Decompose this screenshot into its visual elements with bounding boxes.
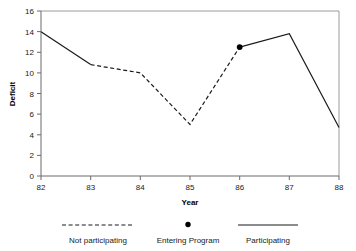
x-tick-label: 82 (37, 183, 46, 192)
legend-label-participating: Participating (246, 236, 290, 245)
chart-legend: Not participating Entering Program Parti… (62, 222, 298, 245)
y-tick-label: 4 (30, 131, 35, 140)
x-tick-label: 83 (86, 183, 95, 192)
y-tick-label: 8 (30, 90, 35, 99)
entering-program-marker (237, 44, 243, 50)
series-not-participating (91, 47, 240, 124)
x-tick-label: 86 (235, 183, 244, 192)
y-tick-label: 16 (25, 7, 34, 16)
y-tick-label: 14 (25, 28, 34, 37)
x-axis-tick-labels: 82 83 84 85 86 87 88 (37, 183, 344, 192)
y-tick-label: 6 (30, 110, 35, 119)
plot-frame (41, 11, 339, 176)
y-axis-tick-labels: 0 2 4 6 8 10 12 14 16 (25, 7, 34, 181)
series-participating-early (41, 32, 91, 65)
y-tick-label: 12 (25, 48, 34, 57)
x-tick-label: 87 (285, 183, 294, 192)
chart-container: 0 2 4 6 8 10 12 14 16 82 83 84 85 86 (0, 0, 356, 251)
x-tick-label: 85 (186, 183, 195, 192)
x-axis-ticks (41, 176, 339, 180)
y-tick-label: 0 (30, 172, 35, 181)
series-participating-late (240, 34, 339, 128)
y-tick-label: 10 (25, 69, 34, 78)
y-axis-title: Deficit (8, 81, 17, 106)
x-axis-title: Year (182, 198, 199, 207)
x-tick-label: 84 (136, 183, 145, 192)
x-tick-label: 88 (335, 183, 344, 192)
y-axis-ticks (37, 11, 41, 176)
legend-filled-dot-icon (185, 222, 190, 227)
legend-label-entering-program: Entering Program (157, 236, 220, 245)
deficit-line-chart: 0 2 4 6 8 10 12 14 16 82 83 84 85 86 (0, 0, 356, 251)
y-tick-label: 2 (30, 151, 35, 160)
data-series-group (41, 32, 339, 128)
legend-label-not-participating: Not participating (69, 236, 127, 245)
